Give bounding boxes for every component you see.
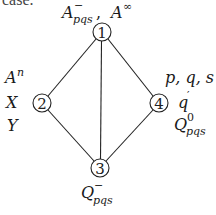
node-3-annotation: Q − pqs <box>81 179 113 207</box>
node-2-annotation: A n X Y <box>3 66 24 135</box>
node-4-line3-sup: 0 <box>187 111 194 124</box>
node-1-comma: , <box>96 3 101 22</box>
node-4-annotation: p, q, s q ′ Q 0 pqs <box>165 68 214 138</box>
edges <box>48 39 153 161</box>
node-2-line1-sup: n <box>17 66 24 79</box>
node-2-line2: X <box>4 93 18 112</box>
edge-2-3 <box>48 110 94 161</box>
node-1-number: 1 <box>97 24 107 42</box>
node-4-number: 4 <box>154 95 164 113</box>
node-1-b-sup: ∞ <box>123 0 132 13</box>
node-1-a-sub: pqs <box>73 13 93 26</box>
lattice-diagram: case. 1 2 3 4 A − pqs , A ∞ A n X Y <box>0 0 216 215</box>
node-1-a-base: A <box>60 3 74 22</box>
edge-4-3 <box>106 110 153 161</box>
cut-off-text-fragment: case. <box>2 0 34 8</box>
edge-1-4 <box>108 39 153 96</box>
node-1: 1 <box>93 23 111 42</box>
node-3: 3 <box>91 159 109 178</box>
node-2-line1-base: A <box>3 68 17 87</box>
node-4-line3-sub: pqs <box>186 125 206 138</box>
node-4: 4 <box>150 94 168 113</box>
node-3-number: 3 <box>95 160 105 178</box>
node-3-sup: − <box>94 179 103 192</box>
node-2-line3: Y <box>7 116 19 135</box>
node-2: 2 <box>33 94 51 113</box>
node-1-annotation: A − pqs , A ∞ <box>60 0 132 26</box>
node-1-b-base: A <box>109 3 123 22</box>
node-1-a-sup: − <box>74 0 83 12</box>
node-2-number: 2 <box>37 95 47 113</box>
node-4-line2-sup: ′ <box>187 89 190 102</box>
edge-1-3 <box>101 41 102 159</box>
node-3-sub: pqs <box>93 194 113 207</box>
node-4-line1: p, q, s <box>165 68 214 87</box>
edge-1-2 <box>48 39 96 96</box>
